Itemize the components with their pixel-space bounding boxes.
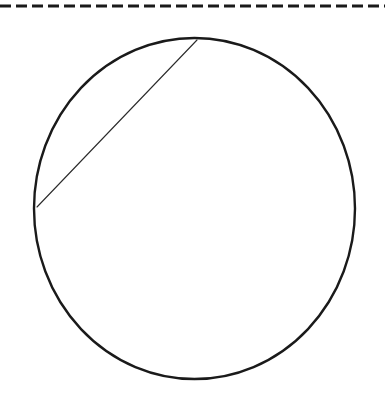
- figure-page: [0, 0, 385, 398]
- geometry-figure: [0, 0, 385, 398]
- page-background: [0, 0, 385, 398]
